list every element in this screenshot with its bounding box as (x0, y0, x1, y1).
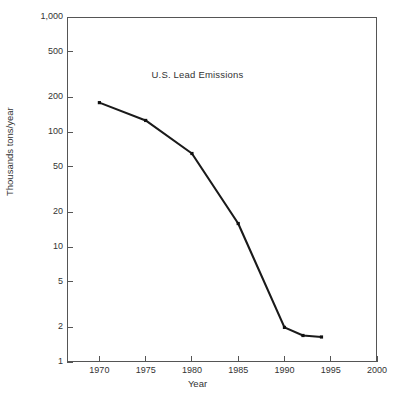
data-point-1975 (144, 119, 147, 122)
data-point-1980 (190, 152, 193, 155)
data-point-1990 (283, 326, 286, 329)
data-point-markers (98, 101, 323, 339)
series-overlay (0, 0, 395, 400)
data-point-1985 (237, 222, 240, 225)
data-point-1992 (301, 334, 304, 337)
lead-emissions-line (99, 103, 321, 337)
data-point-1994 (320, 335, 323, 338)
chart-figure: 1251020501002005001,000 1970197519801985… (0, 0, 395, 400)
data-point-1970 (98, 101, 101, 104)
